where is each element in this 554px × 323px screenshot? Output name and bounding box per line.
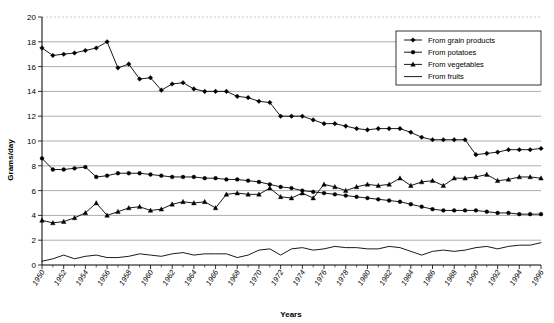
data-point-diamond [484,151,489,156]
data-point-circle [485,210,489,214]
y-tick-label: 10 [27,137,36,146]
data-point-circle [431,207,435,211]
data-point-diamond [506,147,511,152]
data-point-circle [170,175,174,179]
data-point-diamond [376,126,381,131]
y-tick-label: 6 [32,187,37,196]
data-point-diamond [311,118,316,123]
data-point-diamond [289,114,294,119]
data-point-circle [409,202,413,206]
data-point-diamond [202,89,207,94]
x-tick-label: 1950 [30,268,47,288]
x-tick-label: 1986 [421,268,438,288]
x-axis-title: Years [280,310,302,319]
series-1 [40,156,543,216]
data-point-circle [159,174,163,178]
y-axis-title: Grams/day [6,139,15,181]
data-point-diamond [224,89,229,94]
data-point-diamond [322,121,327,126]
y-tick-label: 18 [27,38,36,47]
data-point-triangle [40,218,45,222]
x-tick-label: 1988 [442,268,459,288]
x-tick-label: 1968 [225,268,242,288]
data-point-circle [528,212,532,216]
y-tick-label: 12 [27,112,36,121]
data-point-circle [344,194,348,198]
data-point-triangle [398,176,403,180]
data-point-diamond [528,147,533,152]
data-point-diamond [300,114,305,119]
legend-label: From fruits [428,72,464,81]
line-chart: 02468101214161820 1950195219541956195819… [0,0,554,323]
data-point-diamond [441,137,446,142]
x-tick-label: 1996 [529,268,546,288]
y-tick-label: 14 [27,87,36,96]
x-tick-label: 1984 [399,268,415,287]
data-point-circle [387,199,391,203]
data-point-diamond [257,99,262,104]
data-point-circle [192,175,196,179]
data-point-circle [225,178,229,182]
data-point-circle [517,212,521,216]
data-point-triangle [322,182,327,186]
data-point-circle [311,190,315,194]
x-tick-label: 1952 [52,268,69,288]
x-tick-label: 1990 [464,268,481,288]
data-point-circle [279,185,283,189]
x-tick-label: 1960 [139,268,156,288]
data-point-diamond [517,147,522,152]
y-tick-label: 16 [27,63,36,72]
data-point-diamond [398,126,403,131]
data-point-diamond [430,137,435,142]
data-point-circle [105,174,109,178]
data-point-circle [214,176,218,180]
data-point-diamond [333,121,338,126]
data-point-diamond [235,94,240,99]
x-tick-label: 1962 [160,268,177,288]
data-point-diamond [61,52,66,57]
x-tick-label: 1956 [95,268,112,288]
data-point-circle [366,196,370,200]
data-point-diamond [213,89,218,94]
x-tick-label: 1978 [334,268,351,288]
data-point-circle [539,212,543,216]
x-tick-label: 1970 [247,268,264,288]
data-point-circle [376,197,380,201]
data-point-diamond [409,130,414,135]
chart-container: 02468101214161820 1950195219541956195819… [0,0,554,323]
data-point-circle [507,211,511,215]
data-point-circle [322,191,326,195]
data-point-diamond [539,146,544,151]
data-point-diamond [452,137,457,142]
data-point-circle [355,195,359,199]
data-point-diamond [181,80,186,85]
chart-legend: From grain productsFrom potatoesFrom veg… [396,31,541,85]
legend-label: From vegetables [428,60,484,69]
y-tick-label: 8 [32,162,37,171]
data-point-circle [51,168,55,172]
data-point-circle [290,186,294,190]
data-point-circle [73,166,77,170]
data-point-diamond [94,46,99,51]
y-tick-label: 0 [32,261,37,270]
data-point-diamond [419,135,424,140]
data-point-circle [40,156,44,160]
data-point-circle [246,179,250,183]
x-tick-label: 1954 [74,268,90,287]
data-point-circle [496,211,500,215]
data-point-circle [463,209,467,213]
data-point-diamond [246,95,251,100]
data-point-diamond [354,126,359,131]
data-point-circle [474,209,478,213]
data-point-circle [203,176,207,180]
y-axis: 02468101214161820 [27,13,42,270]
data-point-circle [441,209,445,213]
data-point-diamond [105,40,110,45]
legend-label: From potatoes [428,48,477,57]
x-tick-label: 1976 [312,268,329,288]
data-point-circle [235,178,239,182]
x-tick-label: 1974 [291,268,307,287]
legend-label: From grain products [428,36,495,45]
x-tick-label: 1972 [269,268,286,288]
x-axis: 1950195219541956195819601962196419661968… [30,265,546,287]
